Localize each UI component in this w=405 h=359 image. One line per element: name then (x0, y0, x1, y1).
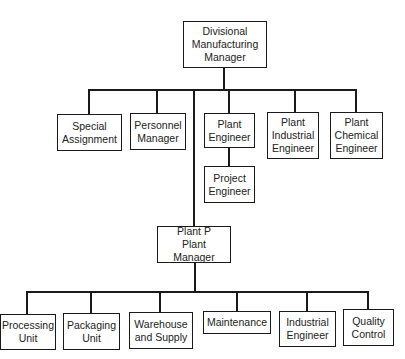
node-label: Packaging Unit (67, 319, 116, 345)
connector-plant-industrial-engineer (294, 89, 296, 113)
node-label: Plant P Plant Manager (160, 225, 228, 264)
node-project-engineer: Project Engineer (204, 166, 255, 203)
node-label: Personnel Manager (134, 119, 181, 145)
connector-quality-control (367, 291, 369, 310)
node-label: Processing Unit (2, 319, 54, 345)
node-label: Plant Chemical Engineer (335, 116, 379, 155)
node-processing-unit: Processing Unit (0, 314, 56, 350)
connector-special-assignment (88, 89, 90, 114)
node-label: Maintenance (207, 316, 267, 329)
connector-processing-unit (26, 291, 28, 315)
node-personnel-manager: Personnel Manager (130, 113, 186, 150)
node-label: Warehouse and Supply (134, 318, 187, 344)
node-plant-p-plant-manager: Plant P Plant Manager (157, 226, 231, 263)
node-divisional-manufacturing-manager: Divisional Manufacturing Manager (183, 21, 267, 68)
connector-maintenance (236, 291, 238, 312)
org-chart: Divisional Manufacturing Manager Special… (0, 0, 405, 359)
node-label: Plant Engineer (208, 118, 250, 144)
node-warehouse-and-supply: Warehouse and Supply (129, 312, 193, 349)
connector-personnel-manager (156, 89, 158, 114)
connector-trunk-to-plant-manager (193, 89, 195, 227)
node-quality-control: Quality Control (343, 309, 394, 346)
node-plant-engineer: Plant Engineer (204, 113, 255, 148)
node-label: Project Engineer (208, 172, 250, 198)
connector-root-down (223, 67, 225, 90)
node-label: Divisional Manufacturing Manager (192, 25, 259, 64)
node-packaging-unit: Packaging Unit (63, 313, 120, 350)
connector-units-bar (26, 291, 369, 293)
connector-plant-chemical-engineer (355, 89, 357, 113)
node-label: Plant Industrial Engineer (272, 116, 315, 155)
node-plant-industrial-engineer: Plant Industrial Engineer (267, 112, 319, 159)
node-plant-chemical-engineer: Plant Chemical Engineer (330, 112, 383, 159)
node-industrial-engineer: Industrial Engineer (279, 311, 336, 347)
connector-plant-engineer (228, 89, 230, 114)
node-label: Quality Control (352, 315, 386, 341)
node-label: Special Assignment (62, 120, 117, 146)
node-special-assignment: Special Assignment (57, 114, 122, 151)
node-maintenance: Maintenance (203, 311, 271, 334)
connector-packaging-unit (90, 291, 92, 314)
connector-staff-bar (88, 89, 357, 91)
node-label: Industrial Engineer (286, 316, 329, 342)
connector-warehouse-supply (159, 291, 161, 313)
connector-plant-to-project-engineer (228, 147, 230, 167)
connector-plant-manager-down (194, 262, 196, 292)
connector-industrial-engineer (306, 291, 308, 312)
